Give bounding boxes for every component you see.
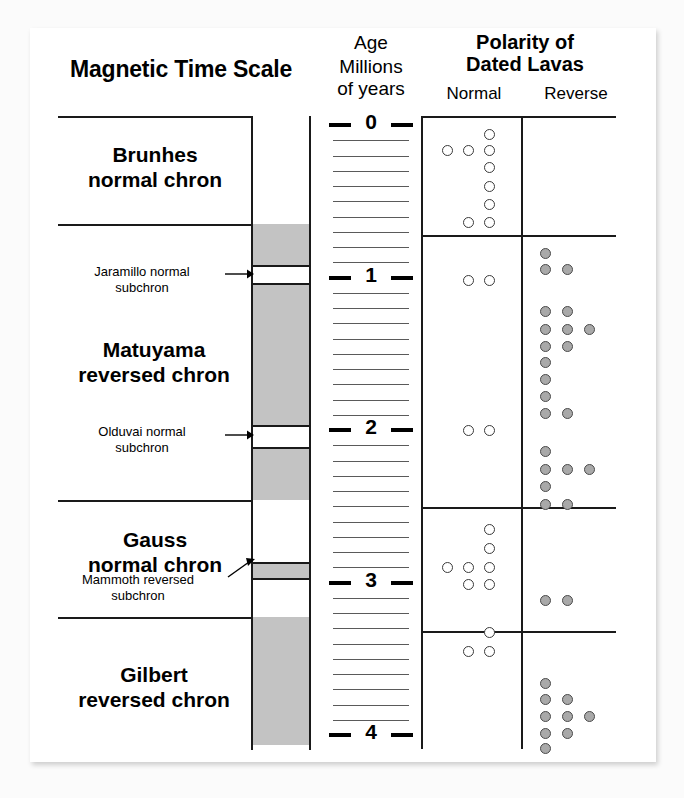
reverse-polarity-dot bbox=[540, 728, 551, 739]
reverse-polarity-dot bbox=[584, 711, 595, 722]
axis-major-tick-right bbox=[391, 581, 413, 585]
arrow-jaramillo bbox=[225, 266, 255, 282]
axis-minor-tick bbox=[333, 674, 409, 675]
axis-major-tick-left bbox=[329, 276, 351, 280]
axis-minor-tick bbox=[333, 171, 409, 172]
normal-polarity-dot bbox=[484, 627, 495, 638]
reverse-polarity-dot bbox=[562, 499, 573, 510]
axis-label-1: 1 bbox=[351, 264, 391, 287]
reverse-polarity-dot bbox=[540, 446, 551, 457]
axis-minor-tick bbox=[333, 262, 409, 263]
axis-major-tick-right bbox=[391, 276, 413, 280]
axis-minor-tick bbox=[333, 476, 409, 477]
reverse-polarity-dot bbox=[584, 464, 595, 475]
axis-major-tick-left bbox=[329, 428, 351, 432]
axis-major-tick-left bbox=[329, 733, 351, 737]
axis-minor-tick bbox=[333, 628, 409, 629]
boundary-top-left bbox=[58, 116, 252, 118]
axis-major-tick-right bbox=[391, 123, 413, 127]
column-divider-mammoth-bottom bbox=[251, 578, 311, 580]
reverse-polarity-dot bbox=[562, 306, 573, 317]
normal-polarity-dot bbox=[484, 199, 495, 210]
normal-polarity-dot bbox=[484, 543, 495, 554]
axis-major-tick-right bbox=[391, 733, 413, 737]
arrow-olduvai bbox=[225, 427, 255, 443]
axis-minor-tick bbox=[333, 522, 409, 523]
normal-polarity-dot bbox=[484, 524, 495, 535]
normal-polarity-dot bbox=[484, 217, 495, 228]
band-gilbert bbox=[253, 617, 309, 745]
reverse-polarity-dot bbox=[540, 391, 551, 402]
axis-minor-tick bbox=[333, 308, 409, 309]
axis-label-2: 2 bbox=[351, 416, 391, 439]
left-title: Magnetic Time Scale bbox=[70, 57, 292, 82]
reverse-polarity-dot bbox=[540, 678, 551, 689]
reverse-polarity-dot bbox=[540, 464, 551, 475]
reverse-polarity-dot bbox=[540, 743, 551, 754]
normal-polarity-dot bbox=[484, 275, 495, 286]
normal-polarity-dot bbox=[484, 162, 495, 173]
axis-minor-tick bbox=[333, 537, 409, 538]
chron-label-gilbert-line2: reversed chron bbox=[58, 688, 250, 712]
axis-minor-tick bbox=[333, 201, 409, 202]
normal-polarity-dot bbox=[484, 145, 495, 156]
reverse-polarity-dot bbox=[584, 324, 595, 335]
axis-minor-tick bbox=[333, 217, 409, 218]
band-mammoth bbox=[253, 563, 309, 579]
axis-minor-tick bbox=[333, 323, 409, 324]
band-matuyama-lower bbox=[253, 448, 309, 500]
axis-minor-tick bbox=[333, 705, 409, 706]
normal-polarity-dot bbox=[484, 579, 495, 590]
reverse-polarity-dot bbox=[562, 464, 573, 475]
column-divider-olduvai-top bbox=[251, 425, 311, 427]
band-olduvai bbox=[253, 426, 309, 448]
axis-minor-tick bbox=[333, 247, 409, 248]
axis-minor-tick bbox=[333, 644, 409, 645]
axis-minor-tick bbox=[333, 491, 409, 492]
subchron-label-jaramillo-line2: subchron bbox=[62, 281, 222, 296]
boundary-gauss-gilbert-right bbox=[421, 631, 616, 633]
axis-header-millions: Millions bbox=[325, 57, 417, 78]
normal-polarity-dot bbox=[484, 129, 495, 140]
axis-header-of-years: of years bbox=[325, 79, 417, 100]
normal-polarity-dot bbox=[442, 145, 453, 156]
reverse-polarity-dot bbox=[562, 711, 573, 722]
axis-major-tick-right bbox=[391, 428, 413, 432]
normal-polarity-dot bbox=[463, 562, 474, 573]
magnetic-time-scale-figure: Magnetic Time Scale Age Millions of year… bbox=[0, 0, 684, 798]
axis-minor-tick bbox=[333, 140, 409, 141]
normal-polarity-dot bbox=[484, 562, 495, 573]
band-gauss-upper bbox=[253, 500, 309, 563]
axis-minor-tick bbox=[333, 186, 409, 187]
axis-minor-tick bbox=[333, 461, 409, 462]
axis-minor-tick bbox=[333, 506, 409, 507]
column-divider-jaramillo-top bbox=[251, 265, 311, 267]
axis-minor-tick bbox=[333, 720, 409, 721]
normal-polarity-dot bbox=[484, 646, 495, 657]
axis-minor-tick bbox=[333, 354, 409, 355]
reverse-polarity-dot bbox=[540, 357, 551, 368]
normal-polarity-dot bbox=[484, 425, 495, 436]
normal-polarity-dot bbox=[463, 646, 474, 657]
axis-minor-tick bbox=[333, 415, 409, 416]
subchron-label-mammoth-line1: Mammoth reversed bbox=[48, 573, 228, 588]
reverse-polarity-dot bbox=[562, 595, 573, 606]
normal-column-header: Normal bbox=[432, 85, 516, 103]
reverse-polarity-dot bbox=[540, 694, 551, 705]
chron-label-matuyama-line1: Matuyama bbox=[56, 338, 252, 362]
reverse-polarity-dot bbox=[540, 324, 551, 335]
axis-minor-tick bbox=[333, 598, 409, 599]
reverse-column-header: Reverse bbox=[530, 85, 622, 103]
normal-polarity-dot bbox=[442, 562, 453, 573]
reverse-polarity-dot bbox=[562, 408, 573, 419]
axis-minor-tick bbox=[333, 156, 409, 157]
chron-label-gauss-line1: Gauss bbox=[60, 528, 250, 552]
boundary-gauss-gilbert-left bbox=[58, 617, 252, 619]
subchron-label-mammoth-line2: subchron bbox=[48, 589, 228, 604]
reverse-polarity-dot bbox=[540, 248, 551, 259]
reverse-polarity-dot bbox=[562, 341, 573, 352]
axis-minor-tick bbox=[333, 232, 409, 233]
band-matuyama-mid bbox=[253, 284, 309, 426]
axis-minor-tick bbox=[333, 613, 409, 614]
subchron-label-olduvai-line2: subchron bbox=[62, 441, 222, 456]
